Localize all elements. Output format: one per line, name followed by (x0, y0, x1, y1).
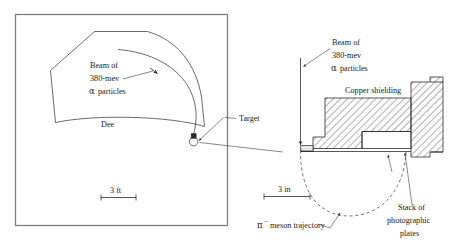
scale-bar-feet (101, 195, 136, 201)
meson-trajectory-label: meson trajectory (270, 221, 326, 230)
plates-label-line1: Stack of (398, 203, 425, 212)
right-panel-group (264, 49, 443, 229)
scale-label-inches: 3 in (278, 185, 291, 194)
copper-shielding-label: Copper shielding (345, 86, 401, 95)
beam-label-leader-right (304, 49, 331, 67)
left-beam-label-line2: 380-mev (90, 74, 120, 83)
copper-shielding-block (301, 98, 411, 152)
target-label: Target (239, 114, 260, 123)
pi-meson-symbol: π (257, 220, 263, 230)
right-beam-label-line2: 380-mev (332, 51, 362, 60)
scale-label-feet: 3 ft (110, 186, 122, 195)
figure-container: Beam of 380-mev α particles Dee Target 3… (0, 0, 472, 247)
beam-label-leader (123, 71, 153, 79)
scale-bar-inches (264, 194, 310, 200)
left-beam-label-line3: particles (98, 87, 126, 96)
beam-direction-arrow (150, 68, 158, 74)
target-holder-wedge (301, 146, 314, 152)
target-leader-lower (200, 143, 284, 153)
technical-diagram: Beam of 380-mev α particles Dee Target 3… (0, 0, 472, 247)
trajectory-label-leader (330, 213, 340, 228)
right-beam-label-line3: particles (340, 64, 368, 73)
meson-trajectory-arc (300, 150, 406, 216)
plates-label-line3: plates (400, 229, 419, 238)
dee-outline (51, 32, 205, 127)
left-beam-label-line1: Beam of (90, 61, 118, 70)
plate-stack-block (411, 77, 443, 157)
left-beam-alpha-symbol: α (89, 86, 95, 96)
pi-meson-superscript: − (264, 217, 268, 226)
right-beam-label-line1: Beam of (332, 38, 360, 47)
shielding-cavity (362, 132, 411, 149)
target-label-dash (225, 118, 236, 119)
plates-label-line2: photographic (387, 216, 431, 225)
target-leader-upper (199, 118, 224, 141)
dee-label: Dee (101, 120, 115, 129)
target-beam-terminus (191, 134, 196, 139)
right-beam-alpha-symbol: α (331, 63, 337, 73)
plates-leader-right (405, 153, 412, 205)
plates-leader-left (388, 155, 392, 172)
